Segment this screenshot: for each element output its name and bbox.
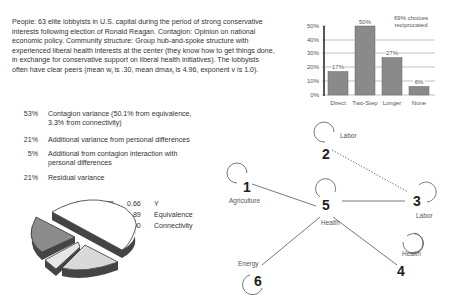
node-1: 1 (243, 179, 251, 195)
node-3: 3 (413, 193, 421, 209)
node-label-health-5: Health (321, 219, 340, 226)
edge-5-6 (262, 217, 320, 265)
node-label-energy: Energy (238, 260, 259, 268)
x-category: Two-Step (352, 100, 378, 106)
loop-3 (419, 182, 436, 202)
y-tick: 40% (307, 37, 320, 43)
bar-value-label: 17% (332, 64, 345, 70)
node-2: 2 (322, 146, 330, 162)
y-tick: 20% (307, 64, 320, 70)
y-tick: 30% (307, 50, 320, 56)
node-label-labor-3: Labor (416, 212, 433, 219)
node-label-labor-2: Labor (340, 132, 357, 139)
loop-5 (316, 179, 336, 197)
x-category: Longer (383, 100, 402, 106)
bar-direct (328, 72, 348, 96)
node-5: 5 (322, 197, 330, 213)
chart-annotation: 69% choices (394, 15, 428, 21)
network-diagram: 1 2 3 4 5 6 Agriculture Labor Labor Heal… (220, 110, 452, 304)
y-tick: 50% (307, 23, 320, 29)
node-label-agriculture: Agriculture (229, 197, 260, 205)
bar-value-label: 6% (415, 79, 424, 85)
node-label-health-4: Health (402, 250, 421, 257)
node-4: 4 (397, 263, 405, 279)
y-tick: 10% (307, 78, 320, 84)
bar-value-label: 50% (359, 19, 372, 25)
edge-2-3-dotted (332, 150, 408, 192)
x-category: None (412, 100, 427, 106)
bar-none (409, 87, 429, 96)
bar-longer (382, 58, 402, 96)
bar-two-step (355, 26, 375, 95)
chart-annotation: reciprocated (394, 22, 427, 28)
pie-chart (0, 190, 220, 304)
bar-chart: 0% 10% 20% 30% 40% 50% 17% 50% 27% 6% Di… (300, 0, 452, 110)
loop-2 (314, 122, 334, 142)
edge-5-4 (333, 217, 397, 265)
edge-1-5 (252, 184, 316, 206)
y-tick: 0% (310, 92, 319, 98)
x-category: Direct (330, 100, 346, 106)
node-6: 6 (254, 273, 262, 289)
bar-value-label: 27% (386, 50, 399, 56)
